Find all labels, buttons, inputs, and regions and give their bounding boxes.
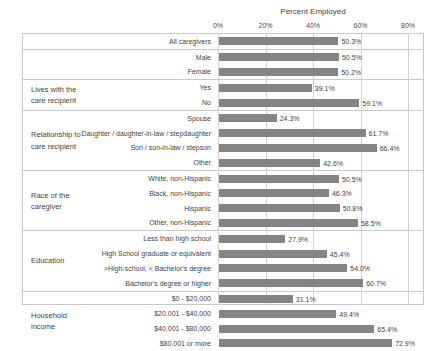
row-category-label: Bachelor's degree or higher (23, 280, 214, 287)
bar-value-label: 27.9% (285, 235, 308, 242)
row-category-label: All caregivers (23, 38, 214, 45)
chart-row: $80,001 or more72.9% (23, 336, 423, 351)
bar-value-label: 54.0% (347, 265, 370, 272)
data-bar (219, 175, 339, 183)
bar-area: 65.4% (219, 321, 409, 336)
row-category-label: $80,001 or more (23, 340, 214, 347)
bar-value-label: 50.2% (338, 68, 361, 75)
bar-area: 50.2% (219, 65, 409, 80)
data-bar (219, 310, 336, 318)
bar-area: 58.5% (219, 216, 409, 231)
bar-value-label: 46.3% (329, 190, 352, 197)
bar-value-label: 61.7% (366, 130, 389, 137)
chart-row: Bachelor's degree or higher60.7% (23, 276, 423, 291)
data-bar (219, 189, 329, 197)
data-bar (219, 114, 277, 122)
row-category-label: High School graduate or equivalent (23, 250, 214, 257)
bar-value-label: 60.7% (363, 280, 386, 287)
chart-group: Relationship tocare recipientSpouse24.3%… (23, 111, 423, 171)
chart-row: Female50.2% (23, 65, 423, 80)
chart-row: $20,001 - $40,00049.4% (23, 306, 423, 321)
x-tick-0: 0% (213, 22, 223, 29)
row-category-label: Female (23, 68, 214, 75)
group-rows: White, non-Hispanic50.5%Black, non-Hispa… (23, 171, 423, 230)
chart-row: Other42.6% (23, 155, 423, 170)
bar-area: 61.7% (219, 126, 409, 141)
chart-row: >High-school, < Bachelor's degree54.0% (23, 261, 423, 276)
bar-value-label: 58.5% (358, 219, 381, 226)
row-category-label: White, non-Hispanic (23, 175, 214, 182)
chart-row: Male50.5% (23, 50, 423, 65)
row-category-label: Black, non-Hispanic (23, 190, 214, 197)
bar-value-label: 42.6% (320, 159, 343, 166)
bar-area: 60.7% (219, 276, 409, 291)
bar-value-label: 72.9% (392, 340, 415, 347)
bar-area: 46.3% (219, 186, 409, 201)
group-rows: Less than high school27.9%High School gr… (23, 231, 423, 290)
x-tick-60: 60% (353, 22, 367, 29)
group-rows: All caregivers50.3% (23, 34, 423, 49)
data-bar (219, 204, 340, 212)
data-bar (219, 339, 392, 347)
data-bar (219, 129, 366, 137)
row-category-label: Other, non-Hispanic (23, 219, 214, 226)
chart-row: High School graduate or equivalent45.4% (23, 246, 423, 261)
bar-value-label: 45.4% (327, 250, 350, 257)
bar-area: 49.4% (219, 306, 409, 321)
bar-value-label: 31.1% (293, 295, 316, 302)
group-rows: Yes39.1%No59.1% (23, 80, 423, 110)
data-bar (219, 264, 347, 272)
row-category-label: Yes (23, 84, 214, 91)
chart-group: Male50.5%Female50.2% (23, 50, 423, 81)
bar-value-label: 50.5% (339, 175, 362, 182)
chart-row: Hispanic50.8% (23, 201, 423, 216)
chart-row: $40,001 - $80,00065.4% (23, 321, 423, 336)
row-category-label: No (23, 99, 214, 106)
row-category-label: Spouse (23, 115, 214, 122)
chart-group: Lives with thecare recipientYes39.1%No59… (23, 80, 423, 111)
bar-area: 45.4% (219, 246, 409, 261)
row-category-label: Less than high school (23, 235, 214, 242)
row-category-label: Son / son-in-law / stepson (23, 144, 214, 151)
chart-group: Householdincome$0 - $20,00031.1%$20,001 … (23, 292, 423, 351)
chart-row: Spouse24.3% (23, 111, 423, 126)
bar-area: 72.9% (219, 336, 409, 351)
bar-value-label: 24.3% (277, 115, 300, 122)
row-category-label: Male (23, 54, 214, 61)
row-category-label: >High-school, < Bachelor's degree (23, 265, 214, 272)
group-rows: $0 - $20,00031.1%$20,001 - $40,00049.4%$… (23, 292, 423, 351)
bar-value-label: 66.4% (377, 144, 400, 151)
data-bar (219, 279, 363, 287)
chart-group: EducationLess than high school27.9%High … (23, 231, 423, 291)
bar-value-label: 50.8% (340, 205, 363, 212)
bar-value-label: 39.1% (312, 84, 335, 91)
x-tick-20: 20% (258, 22, 272, 29)
row-category-label: Daughter / daughter-in-law / stepdaughte… (23, 130, 214, 137)
chart-row: Other, non-Hispanic58.5% (23, 216, 423, 231)
data-bar (219, 219, 358, 227)
data-bar (219, 250, 327, 258)
chart-row: No59.1% (23, 95, 423, 110)
bar-area: 50.8% (219, 201, 409, 216)
bar-value-label: 50.3% (338, 38, 361, 45)
bar-value-label: 65.4% (374, 325, 397, 332)
bar-area: 50.3% (219, 34, 409, 49)
group-rows: Spouse24.3%Daughter / daughter-in-law / … (23, 111, 423, 170)
data-bar (219, 235, 285, 243)
row-category-label: $0 - $20,000 (23, 295, 214, 302)
chart-row: $0 - $20,00031.1% (23, 292, 423, 307)
data-bar (219, 84, 312, 92)
bar-value-label: 49.4% (336, 310, 359, 317)
chart-row: Less than high school27.9% (23, 231, 423, 246)
bar-area: 54.0% (219, 261, 409, 276)
bar-area: 24.3% (219, 111, 409, 126)
row-category-label: Hispanic (23, 205, 214, 212)
data-bar (219, 37, 338, 45)
chart-row: Yes39.1% (23, 80, 423, 95)
data-bar (219, 159, 320, 167)
chart-row: Black, non-Hispanic46.3% (23, 186, 423, 201)
bar-area: 50.5% (219, 171, 409, 186)
chart-row: Daughter / daughter-in-law / stepdaughte… (23, 126, 423, 141)
row-category-label: $20,001 - $40,000 (23, 310, 214, 317)
